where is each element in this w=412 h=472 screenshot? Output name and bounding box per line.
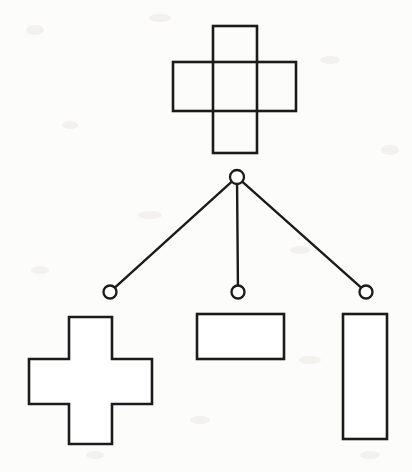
root-node[interactable] [230,170,244,184]
child-shape-cross-polygon [29,317,152,444]
edge-root-to-left [115,182,232,288]
child-shape-horizontal-rectangle [197,314,284,359]
parent-shape-cross-overlapping-rectangles [173,26,296,153]
edge-root-to-center [237,184,238,286]
tree-edges [115,182,361,288]
child-node-left[interactable] [104,286,117,299]
shape-decomposition-diagram [0,0,412,472]
edge-root-to-right [242,182,361,288]
parent-vertical-rect [213,26,257,153]
child-node-right[interactable] [360,286,373,299]
figure-container: Shape decomposition tree [0,0,412,472]
child-node-center[interactable] [232,286,245,299]
child-shape-vertical-rectangle [343,314,387,439]
parent-horizontal-rect [173,62,296,111]
